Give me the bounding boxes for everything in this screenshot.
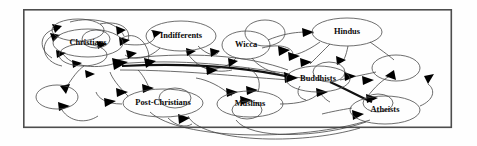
arrowhead <box>144 58 156 68</box>
node-unlabeled-2[interactable] <box>372 55 420 81</box>
edge-curve <box>298 86 306 100</box>
arrowhead <box>85 70 95 78</box>
arrowhead <box>385 70 396 80</box>
arrowhead <box>424 74 434 84</box>
arrowhead <box>362 76 374 85</box>
edge-curve <box>420 84 433 106</box>
edge-curve <box>322 108 352 114</box>
node-label-indifferents: Indifferents <box>160 31 203 40</box>
node-label-christians: Christians <box>69 38 107 47</box>
node-label-post-christians: Post-Christians <box>135 98 191 107</box>
edge-curve <box>62 110 98 121</box>
arrowhead <box>246 86 258 95</box>
arrowhead <box>278 46 290 56</box>
graph-canvas: Christians Indifferents Wicca Hindus Bud… <box>0 0 477 146</box>
arrowhead <box>52 24 62 33</box>
edge-curve <box>290 42 320 55</box>
arrowhead <box>104 98 116 107</box>
node-label-buddhists: Buddhists <box>300 74 337 83</box>
diagram-figure: Christians Indifferents Wicca Hindus Bud… <box>0 0 477 146</box>
edge-curve <box>368 76 390 96</box>
node-unlabeled-1[interactable] <box>36 85 78 109</box>
arrowhead <box>228 58 238 67</box>
arrowhead <box>58 102 70 111</box>
arrowhead <box>72 60 82 68</box>
arrowhead <box>56 50 66 58</box>
node-label-atheists: Atheists <box>371 105 401 114</box>
node-label-muslims: Muslims <box>235 99 266 108</box>
node-label-wicca: Wicca <box>235 40 258 49</box>
arrowhead <box>288 52 300 61</box>
edge-curve-bold <box>330 82 372 102</box>
node-label-hindus: Hindus <box>334 27 361 36</box>
arrowhead <box>300 58 312 67</box>
